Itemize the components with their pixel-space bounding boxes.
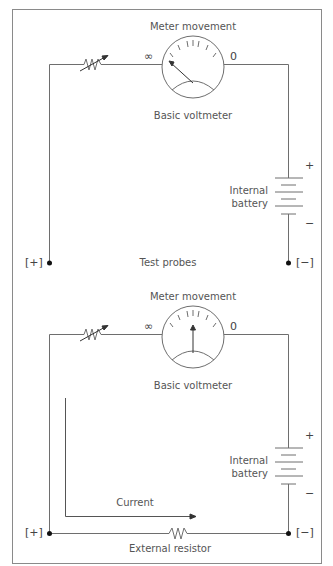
bottom-battery-icon xyxy=(275,448,303,484)
top-probe-negative-label: [−] xyxy=(296,257,314,269)
top-meter-caption: Basic voltmeter xyxy=(154,110,232,122)
test-probes-label: Test probes xyxy=(140,257,197,269)
top-probe-positive-terminal xyxy=(47,261,52,266)
top-left-wire xyxy=(50,65,81,264)
bottom-battery-label-1: Internal xyxy=(229,455,268,467)
bottom-probe-positive-label: [+] xyxy=(25,527,43,539)
external-resistor-icon xyxy=(169,528,192,539)
top-meter-icon xyxy=(162,36,224,98)
bottom-left-wire xyxy=(50,335,81,534)
top-scale-zero: 0 xyxy=(230,51,237,63)
bottom-circuit xyxy=(50,306,304,539)
bottom-probe-negative-label: [−] xyxy=(296,527,314,539)
top-circuit xyxy=(50,36,304,263)
circuit-drawing xyxy=(0,0,333,566)
top-right-wire xyxy=(224,65,289,179)
bottom-battery-label-2: battery xyxy=(232,468,269,480)
ohmmeter-diagram: Meter movement ∞ 0 Basic voltmeter + Int… xyxy=(0,0,333,566)
bottom-meter-caption: Basic voltmeter xyxy=(154,380,232,392)
top-battery-label-1: Internal xyxy=(229,185,268,197)
figure-frame xyxy=(13,10,322,564)
top-probe-positive-label: [+] xyxy=(25,257,43,269)
top-probe-negative-terminal xyxy=(286,261,291,266)
top-scale-infinity: ∞ xyxy=(144,51,153,63)
bottom-scale-infinity: ∞ xyxy=(144,321,153,333)
bottom-battery-plus: + xyxy=(305,430,314,442)
top-battery-label-2: battery xyxy=(232,198,269,210)
current-label: Current xyxy=(116,497,154,509)
bottom-battery-minus: − xyxy=(305,488,314,500)
top-battery-minus: − xyxy=(305,218,314,230)
external-resistor-label: External resistor xyxy=(129,543,211,555)
top-battery-plus: + xyxy=(305,160,314,172)
top-meter-title: Meter movement xyxy=(150,21,236,33)
bottom-scale-zero: 0 xyxy=(230,321,237,333)
bottom-right-wire xyxy=(224,335,289,449)
bottom-probe-positive-terminal xyxy=(47,531,52,536)
bottom-meter-icon xyxy=(162,306,224,368)
current-arrowhead-icon xyxy=(190,514,196,519)
top-battery-icon xyxy=(275,178,303,214)
bottom-probe-negative-terminal xyxy=(286,531,291,536)
bottom-meter-title: Meter movement xyxy=(150,291,236,303)
